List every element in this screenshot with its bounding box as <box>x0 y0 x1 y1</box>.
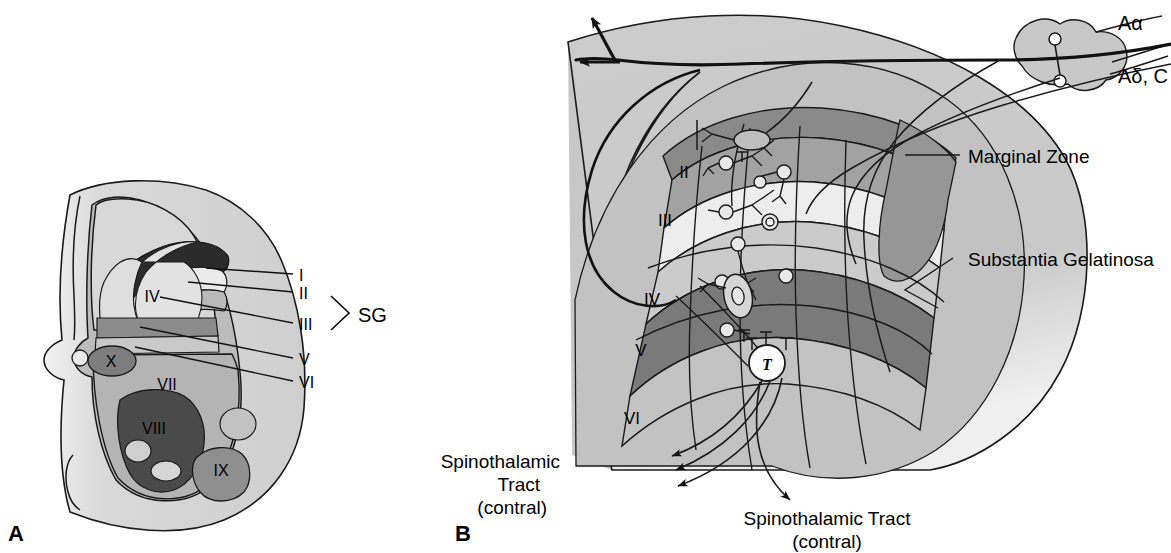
lamina-label-VIII-a: VIII <box>142 420 166 437</box>
leader-label-III: III <box>299 316 312 333</box>
lamina-label-IV-a: IV <box>144 288 159 305</box>
interneuron-soma-1 <box>719 156 733 170</box>
panel-b: T II III IV V VI Marginal Zone Substanti… <box>441 12 1171 552</box>
interneuron-soma-5-inner <box>766 218 774 226</box>
panel-letter-a: A <box>8 521 24 546</box>
interneuron-soma-2 <box>719 205 733 219</box>
sg-label: SG <box>358 304 387 326</box>
substantia-gelatinosa-label: Substantia Gelatinosa <box>968 249 1154 270</box>
a-delta-c-label: Aδ, C <box>1118 65 1168 87</box>
lamina-label-IX-a: IX <box>213 462 228 479</box>
figure-svg: IV X VII VIII IX I II III V VI SG A <box>0 0 1171 553</box>
leader-label-VI: VI <box>299 374 314 391</box>
interneuron-soma-4 <box>754 176 766 188</box>
lamina-label-VI-b: VI <box>624 409 640 428</box>
panel-letter-b: B <box>455 521 471 546</box>
lamina-label-IV-b: IV <box>644 290 661 309</box>
interneuron-soma-6 <box>731 237 745 251</box>
figure-root: IV X VII VIII IX I II III V VI SG A <box>0 0 1171 553</box>
interneuron-soma-9 <box>720 323 734 337</box>
t-cell-label: T <box>762 356 773 373</box>
a-alpha-label: Aα <box>1118 12 1143 34</box>
stt-label-left-line1: Spinothalamic <box>441 451 560 472</box>
lamina-label-V-b: V <box>635 341 647 360</box>
ganglion-cell-upper <box>1049 33 1061 45</box>
lamina-label-III-b: III <box>658 211 672 230</box>
marginal-zone-label: Marginal Zone <box>968 146 1089 167</box>
stt-label-left-line3: (contral) <box>477 497 547 518</box>
stt-label-left-line2: Tract <box>497 474 540 495</box>
central-canal <box>72 350 88 366</box>
leader-label-II: II <box>299 285 308 302</box>
panel-a: IV X VII VIII IX I II III V VI SG A <box>8 181 387 546</box>
motor-nucleus-3 <box>220 408 256 440</box>
stt-label-bottom-line1: Spinothalamic Tract <box>744 508 912 529</box>
ganglion-cell-lower <box>1054 75 1066 87</box>
lamina-label-VII-a: VII <box>157 376 177 393</box>
motor-nucleus-1 <box>125 440 151 462</box>
lamina-label-X-a: X <box>106 353 117 370</box>
leader-label-I: I <box>299 267 303 284</box>
stt-label-bottom-line2: (contral) <box>792 531 862 552</box>
leader-label-V: V <box>299 351 310 368</box>
interneuron-soma-8 <box>779 269 793 283</box>
interneuron-soma-3 <box>777 165 791 179</box>
motor-nucleus-2 <box>151 461 181 481</box>
sg-bracket <box>331 296 349 330</box>
lamina-V-region <box>97 318 218 338</box>
lamina-label-II-b: II <box>679 163 688 182</box>
